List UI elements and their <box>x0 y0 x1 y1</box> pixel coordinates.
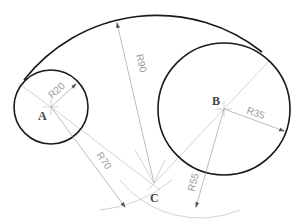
label-r20: R20 <box>46 80 67 101</box>
construction-arc-r55 <box>120 180 240 218</box>
label-point-c: C <box>150 191 159 205</box>
construction-arc-r70 <box>100 180 172 210</box>
label-r35: R35 <box>245 105 266 122</box>
label-point-a: A <box>38 109 47 123</box>
geometry-diagram: R20 R35 R90 R70 R55 A B C <box>0 0 295 221</box>
dim-r70 <box>51 107 125 207</box>
center-line-b-c <box>148 60 270 190</box>
dim-r90 <box>117 23 154 183</box>
label-r55: R55 <box>185 171 201 192</box>
center-line-a-c <box>51 107 160 190</box>
label-r90: R90 <box>134 53 149 74</box>
label-point-b: B <box>212 94 220 108</box>
center-line-a-tangent <box>18 83 51 107</box>
